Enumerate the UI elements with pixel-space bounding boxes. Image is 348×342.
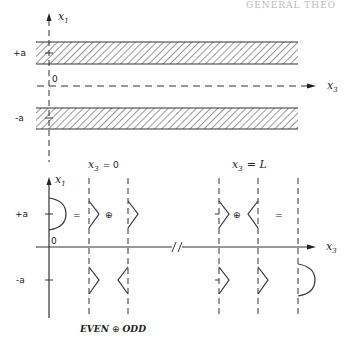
origin-label-bottom: 0	[51, 236, 57, 246]
even-half-upper-right	[219, 201, 229, 228]
origin-label-top: 0	[52, 74, 58, 84]
section-label-x3-L: x3= L	[232, 158, 267, 173]
upper-hatched-slab	[36, 42, 298, 64]
equals-sign-right: =	[275, 210, 283, 220]
x1-axis-label-bottom: x1	[55, 173, 66, 188]
odd-half-lower-right	[258, 267, 268, 294]
arrow-right-icon	[307, 245, 316, 250]
odd-half-lower-left	[118, 267, 128, 294]
even-half-upper-left	[89, 201, 99, 228]
oplus-right: ⊕	[233, 210, 241, 220]
oplus-left: ⊕	[105, 210, 113, 220]
axis-break-icon	[172, 242, 176, 252]
x1-axis-label-top: x1	[58, 10, 69, 25]
bottom-diagram: x3= 0 x3= L x1 +a -a 0 x3 = ⊕	[15, 158, 337, 334]
x3-axis-label-top: x3	[327, 79, 338, 94]
lower-hatched-slab	[36, 108, 298, 129]
arrow-up-icon	[47, 13, 52, 21]
page-header-text: GENERAL THEO	[246, 0, 336, 10]
top-diagram: x1 +a -a 0 x3	[13, 10, 338, 162]
section-label-x3-0: x3= 0	[88, 158, 119, 173]
caption-even-oplus-odd: EVEN⊕ODD	[79, 324, 146, 334]
arrow-right-icon	[307, 84, 316, 89]
equals-sign-left: =	[73, 210, 81, 220]
odd-half-upper-right	[248, 201, 258, 228]
tick-minus-a-bottom: -a	[16, 275, 25, 285]
tick-plus-a-bottom: +a	[15, 209, 28, 219]
tick-plus-a-top: +a	[13, 48, 26, 58]
x3-axis-label-bottom: x3	[326, 240, 337, 255]
even-half-lower-right	[219, 267, 229, 294]
section-lines	[89, 178, 298, 318]
odd-half-upper-left	[128, 201, 138, 228]
waveguide-mode-diagram: GENERAL THEO x1 +a -a 0 x3 x3= 0 x3= L x…	[0, 0, 348, 342]
mode-profile-full-right	[298, 264, 315, 296]
arrow-up-icon	[47, 177, 52, 185]
tick-minus-a-top: -a	[15, 113, 24, 123]
even-half-lower-left	[89, 267, 99, 294]
